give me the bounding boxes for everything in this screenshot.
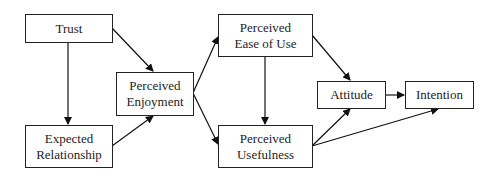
edge-ease-of-use-to-attitude xyxy=(312,35,350,80)
node-expected-relationship: Expected Relationship xyxy=(25,125,113,168)
node-perceived-enjoyment: Perceived Enjoyment xyxy=(116,72,194,116)
edge-perceived-enjoyment-to-ease-of-use xyxy=(193,37,218,93)
node-label: Trust xyxy=(56,21,83,37)
node-label: Perceived Enjoyment xyxy=(126,78,183,110)
node-label: Perceived Usefulness xyxy=(237,131,294,163)
node-attitude: Attitude xyxy=(317,81,386,109)
edge-trust-to-perceived-enjoyment xyxy=(112,28,153,71)
edge-perceived-enjoyment-to-usefulness xyxy=(193,93,218,144)
node-label: Perceived Ease of Use xyxy=(234,20,296,52)
node-perceived-ease-of-use: Perceived Ease of Use xyxy=(218,14,313,57)
node-intention: Intention xyxy=(405,81,474,109)
edge-expected-relationship-to-perceived-enjoyment xyxy=(112,116,153,146)
node-perceived-usefulness: Perceived Usefulness xyxy=(218,125,313,168)
node-label: Expected Relationship xyxy=(36,131,102,163)
node-label: Intention xyxy=(416,87,463,103)
node-trust: Trust xyxy=(25,14,113,43)
node-label: Attitude xyxy=(330,87,373,103)
